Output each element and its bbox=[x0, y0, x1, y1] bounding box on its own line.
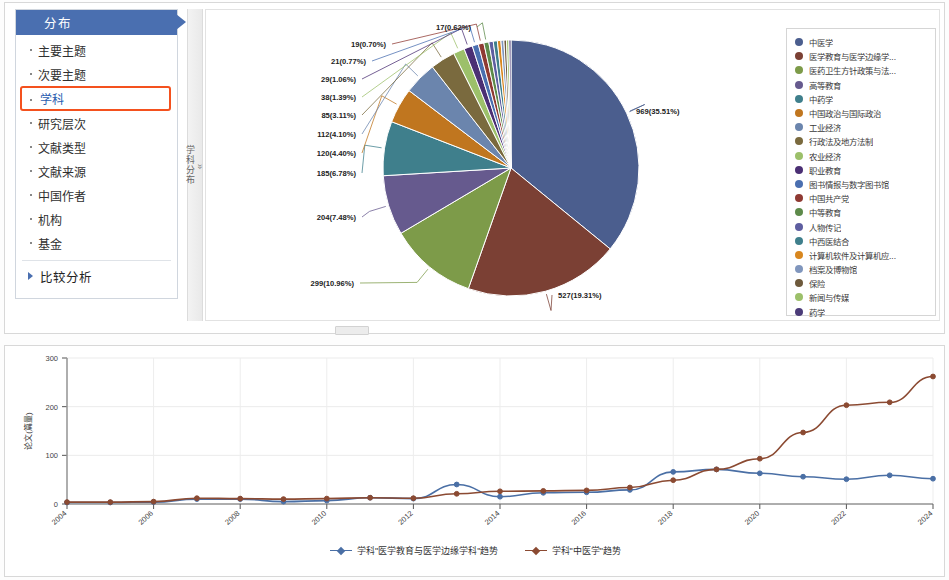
trend-line-chart[interactable]: 0100200300200420062008201020122014201620… bbox=[5, 346, 946, 546]
legend-item-label: 中药学 bbox=[809, 93, 833, 105]
legend-item-label: 新闻与传媒 bbox=[809, 291, 849, 303]
legend-color-swatch-icon bbox=[795, 180, 803, 188]
sidebar-item-comparison[interactable]: 比较分析 bbox=[16, 261, 177, 291]
legend-item-14[interactable]: 中西医结合 bbox=[795, 234, 930, 248]
pie-data-label-3: 204(7.48%) bbox=[317, 213, 357, 222]
pie-chart-legend[interactable]: 中医学医学教育与医学边缘学...医药卫生方针政策与法...高等教育中药学中国政治… bbox=[786, 28, 936, 316]
data-point[interactable] bbox=[628, 485, 633, 490]
legend-item-3[interactable]: 高等教育 bbox=[795, 78, 930, 92]
legend-item-7[interactable]: 行政法及地方法制 bbox=[795, 134, 930, 148]
legend-marker-icon bbox=[525, 547, 547, 555]
data-point[interactable] bbox=[671, 478, 676, 483]
data-point[interactable] bbox=[238, 496, 243, 501]
data-point[interactable] bbox=[844, 403, 849, 408]
legend-color-swatch-icon bbox=[795, 95, 803, 103]
legend-color-swatch-icon bbox=[795, 137, 803, 145]
data-point[interactable] bbox=[411, 496, 416, 501]
legend-item-label: 中西医结合 bbox=[809, 235, 849, 247]
legend-item-label: 行政法及地方法制 bbox=[809, 135, 873, 147]
pie-label-leader-4 bbox=[362, 145, 382, 173]
trend-chart-legend[interactable]: 学科"医学教育与医学边缘学科"趋势学科"中医学"趋势 bbox=[5, 544, 946, 557]
sidebar-item-8[interactable]: 基金 bbox=[16, 231, 177, 255]
legend-color-swatch-icon bbox=[795, 308, 803, 316]
data-point[interactable] bbox=[887, 473, 892, 478]
sidebar-item-0[interactable]: 主要主题 bbox=[16, 38, 177, 62]
data-point[interactable] bbox=[757, 471, 762, 476]
legend-item-label: 保险 bbox=[809, 277, 825, 289]
data-point[interactable] bbox=[801, 430, 806, 435]
legend-item-18[interactable]: 新闻与传媒 bbox=[795, 290, 930, 304]
legend-color-swatch-icon bbox=[795, 237, 803, 245]
legend-item-13[interactable]: 人物传记 bbox=[795, 219, 930, 233]
sidebar-item-6[interactable]: 中国作者 bbox=[16, 183, 177, 207]
data-point[interactable] bbox=[324, 496, 329, 501]
legend-item-19[interactable]: 药学 bbox=[795, 305, 930, 319]
legend-item-6[interactable]: 工业经济 bbox=[795, 120, 930, 134]
pie-label-leader-3 bbox=[362, 206, 386, 217]
pie-data-label-0: 969(35.51%) bbox=[636, 107, 680, 116]
data-point[interactable] bbox=[844, 477, 849, 482]
legend-item-4[interactable]: 中药学 bbox=[795, 92, 930, 106]
data-point[interactable] bbox=[498, 494, 503, 499]
legend-item-12[interactable]: 中等教育 bbox=[795, 205, 930, 219]
data-point[interactable] bbox=[195, 496, 200, 501]
sidebar-item-2[interactable]: 学科 bbox=[20, 86, 171, 111]
pie-data-label-7: 85(3.11%) bbox=[321, 111, 356, 120]
legend-item-10[interactable]: 图书情报与数字图书馆 bbox=[795, 177, 930, 191]
data-point[interactable] bbox=[281, 497, 286, 502]
trend-legend-item-0[interactable]: 学科"医学教育与医学边缘学科"趋势 bbox=[330, 544, 498, 557]
legend-item-1[interactable]: 医学教育与医学边缘学... bbox=[795, 49, 930, 63]
triangle-right-icon bbox=[28, 272, 33, 280]
sidebar-item-5[interactable]: 文献来源 bbox=[16, 159, 177, 183]
data-point[interactable] bbox=[454, 491, 459, 496]
horizontal-scrollbar-thumb[interactable] bbox=[335, 326, 369, 335]
sidebar-item-4[interactable]: 文献类型 bbox=[16, 135, 177, 159]
data-point[interactable] bbox=[757, 456, 762, 461]
legend-item-8[interactable]: 农业经济 bbox=[795, 149, 930, 163]
sidebar-header-arrow-icon bbox=[176, 14, 186, 30]
data-point[interactable] bbox=[498, 489, 503, 494]
data-point[interactable] bbox=[368, 495, 373, 500]
data-point[interactable] bbox=[931, 476, 936, 481]
legend-item-label: 图书情报与数字图书馆 bbox=[809, 178, 889, 190]
legend-color-swatch-icon bbox=[795, 152, 803, 160]
sidebar-item-label: 研究层次 bbox=[38, 115, 86, 132]
x-axis-tick-label: 2016 bbox=[570, 509, 588, 527]
trend-legend-item-1[interactable]: 学科"中医学"趋势 bbox=[525, 544, 621, 557]
x-axis-tick-label: 2010 bbox=[310, 509, 328, 527]
legend-item-0[interactable]: 中医学 bbox=[795, 35, 930, 49]
sidebar-item-3[interactable]: 研究层次 bbox=[16, 111, 177, 135]
legend-item-11[interactable]: 中国共产党 bbox=[795, 191, 930, 205]
legend-item-5[interactable]: 中国政治与国际政治 bbox=[795, 106, 930, 120]
x-axis-tick-label: 2008 bbox=[223, 509, 241, 527]
data-point[interactable] bbox=[887, 400, 892, 405]
data-point[interactable] bbox=[584, 488, 589, 493]
y-axis-title: 论文(篇量) bbox=[23, 412, 33, 450]
data-point[interactable] bbox=[541, 489, 546, 494]
pie-data-label-9: 29(1.06%) bbox=[321, 75, 357, 84]
data-point[interactable] bbox=[801, 474, 806, 479]
sidebar-item-label: 比较分析 bbox=[40, 267, 92, 286]
sidebar-item-1[interactable]: 次要主题 bbox=[16, 62, 177, 86]
legend-item-17[interactable]: 保险 bbox=[795, 276, 930, 290]
pie-data-label-6: 112(4.10%) bbox=[317, 130, 356, 139]
legend-item-label: 中国共产党 bbox=[809, 192, 849, 204]
legend-item-9[interactable]: 职业教育 bbox=[795, 163, 930, 177]
pie-data-label-2: 299(10.96%) bbox=[311, 279, 355, 288]
legend-item-15[interactable]: 计算机软件及计算机应... bbox=[795, 248, 930, 262]
data-point[interactable] bbox=[454, 482, 459, 487]
data-point[interactable] bbox=[931, 374, 936, 379]
x-axis-tick-label: 2006 bbox=[137, 509, 155, 527]
pie-data-label-12: 17(0.62%) bbox=[436, 23, 472, 32]
data-point[interactable] bbox=[671, 470, 676, 475]
legend-item-16[interactable]: 档案及博物馆 bbox=[795, 262, 930, 276]
legend-item-2[interactable]: 医药卫生方针政策与法... bbox=[795, 63, 930, 77]
panel-collapse-tab[interactable]: 学科分布 » bbox=[187, 9, 203, 321]
data-point[interactable] bbox=[151, 499, 156, 504]
app-root: 分布 主要主题次要主题学科研究层次文献类型文献来源中国作者机构基金 比较分析 学… bbox=[0, 0, 949, 580]
bullet-icon bbox=[30, 218, 32, 220]
data-point[interactable] bbox=[108, 500, 113, 505]
data-point[interactable] bbox=[65, 500, 70, 505]
sidebar-item-7[interactable]: 机构 bbox=[16, 207, 177, 231]
data-point[interactable] bbox=[714, 467, 719, 472]
